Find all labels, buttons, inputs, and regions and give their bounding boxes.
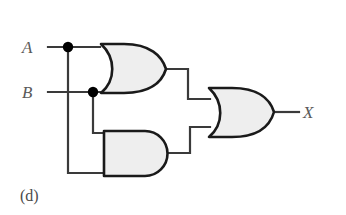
gate-or-2 (209, 88, 274, 137)
wire-or1-to-or2 (165, 69, 210, 99)
gate-and-1-body (104, 131, 168, 176)
wire-a-branch-to-and (68, 47, 105, 173)
gate-or-2-body (209, 88, 274, 137)
gate-or-1-body (101, 44, 166, 93)
wire-and-to-or2 (168, 127, 210, 153)
circuit-diagram-svg (0, 0, 346, 215)
junction-b-dot (88, 87, 98, 97)
wire-b-branch-to-and (93, 92, 105, 133)
logic-circuit-figure: A B X (d) (0, 0, 346, 215)
gate-and-1 (104, 131, 168, 176)
input-label-a: A (22, 39, 32, 56)
junction-a-dot (63, 42, 73, 52)
input-label-b: B (22, 84, 32, 101)
output-label-x: X (303, 104, 313, 121)
panel-label: (d) (20, 188, 39, 204)
gate-or-1 (101, 44, 166, 93)
